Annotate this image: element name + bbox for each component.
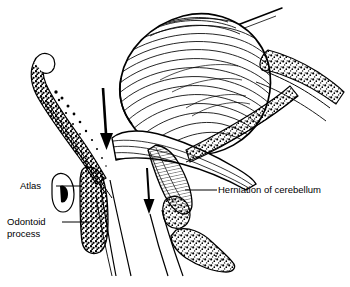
- anatomical-figure: Atlas Odontoid process Herniation of cer…: [0, 0, 350, 287]
- label-atlas: Atlas: [20, 180, 41, 192]
- label-odontoid-process: Odontoid process: [7, 216, 46, 240]
- label-odontoid-line1: Odontoid: [7, 216, 46, 228]
- atlas-arch: [52, 173, 74, 212]
- label-odontoid-line2: process: [7, 228, 46, 240]
- descent-arrow-tonsil[interactable]: [144, 168, 155, 214]
- odontoid-process: [80, 167, 108, 253]
- label-herniation-of-cerebellum: Herniation of cerebellum: [218, 184, 321, 196]
- figure-canvas: [0, 0, 350, 287]
- descent-arrow-brainstem[interactable]: [100, 88, 113, 150]
- cervical-vertebra-body: [163, 196, 235, 272]
